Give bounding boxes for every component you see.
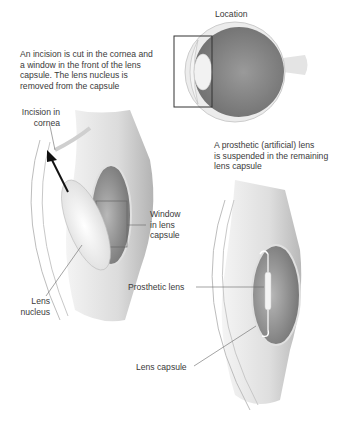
step1-caption: An incision is cut in the cornea and a w… bbox=[20, 49, 153, 91]
label-window: Window in lens capsule bbox=[150, 209, 181, 241]
leader-incision bbox=[50, 126, 55, 150]
lens-capsule-2 bbox=[252, 245, 300, 345]
label-incision: Incision in cornea bbox=[18, 107, 60, 128]
removal-arrow-head bbox=[47, 150, 57, 162]
label-nucleus: Lens nucleus bbox=[18, 296, 50, 317]
step2-illustration bbox=[194, 180, 301, 410]
optic-nerve bbox=[283, 55, 308, 75]
removal-arrow-shaft bbox=[52, 160, 68, 192]
location-label: Location bbox=[215, 9, 248, 20]
lens bbox=[194, 54, 212, 90]
label-prosthetic: Prosthetic lens bbox=[128, 282, 184, 293]
step2-caption: A prosthetic (artificial) lens is suspen… bbox=[214, 140, 328, 172]
location-eye bbox=[174, 22, 308, 122]
label-capsule: Lens capsule bbox=[136, 362, 187, 373]
